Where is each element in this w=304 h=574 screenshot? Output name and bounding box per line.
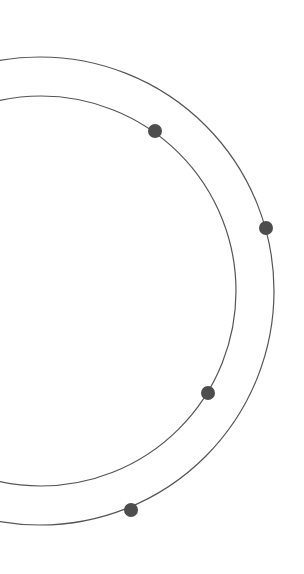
- orbit-graphic: [0, 0, 304, 574]
- outer-ring-icon: [0, 57, 274, 525]
- rings-group: [0, 57, 274, 525]
- outer-ring-dot-right-icon: [259, 221, 273, 235]
- inner-ring-dot-top-icon: [148, 124, 162, 138]
- dots-group: [124, 124, 273, 517]
- inner-ring-dot-bottom-icon: [201, 386, 215, 400]
- outer-ring-dot-bottom-icon: [124, 503, 138, 517]
- inner-ring-icon: [0, 96, 236, 486]
